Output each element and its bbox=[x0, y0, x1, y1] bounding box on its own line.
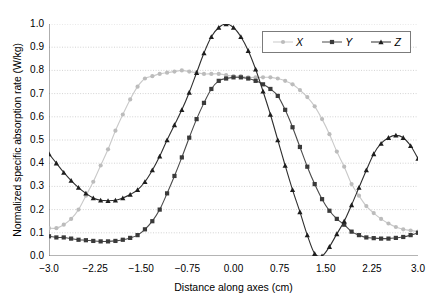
data-point-marker bbox=[179, 107, 184, 112]
data-point-marker bbox=[298, 88, 302, 92]
data-point-marker bbox=[394, 225, 398, 229]
data-point-marker bbox=[305, 233, 310, 238]
data-point-marker bbox=[106, 147, 110, 151]
data-point-marker bbox=[297, 209, 302, 214]
chart-legend: XYZ bbox=[262, 31, 411, 53]
data-point-marker bbox=[121, 238, 125, 242]
data-point-marker bbox=[356, 185, 361, 190]
data-point-marker bbox=[281, 40, 285, 44]
plot-canvas bbox=[49, 24, 418, 256]
y-tick-label: 0.5 bbox=[18, 135, 44, 145]
data-point-marker bbox=[113, 239, 117, 243]
data-point-marker bbox=[253, 67, 258, 72]
data-point-marker bbox=[165, 191, 169, 195]
y-tick-label: 0.4 bbox=[18, 158, 44, 168]
chart-figure: Normalized specific absorption rate (W/k… bbox=[0, 0, 439, 301]
data-point-marker bbox=[157, 154, 162, 159]
data-point-marker bbox=[401, 235, 405, 239]
data-point-marker bbox=[209, 34, 214, 39]
circle-marker-icon bbox=[272, 36, 294, 48]
y-tick-label: 0.9 bbox=[18, 42, 44, 52]
data-point-marker bbox=[268, 87, 272, 91]
data-point-marker bbox=[54, 235, 58, 239]
square-marker-icon bbox=[321, 36, 343, 48]
data-point-marker bbox=[209, 87, 213, 91]
data-point-marker bbox=[217, 72, 221, 76]
data-point-marker bbox=[394, 236, 398, 240]
data-point-marker bbox=[187, 136, 191, 140]
series-line bbox=[49, 77, 418, 241]
legend-entry-y[interactable]: Y bbox=[321, 36, 352, 48]
data-point-marker bbox=[76, 208, 80, 212]
series-y bbox=[49, 75, 418, 243]
data-point-marker bbox=[172, 69, 176, 73]
data-point-marker bbox=[69, 217, 73, 221]
data-point-marker bbox=[379, 217, 383, 221]
data-point-marker bbox=[158, 208, 162, 212]
data-point-marker bbox=[128, 192, 133, 197]
data-point-marker bbox=[150, 168, 155, 173]
data-point-marker bbox=[371, 151, 376, 156]
data-point-marker bbox=[305, 95, 309, 99]
data-point-marker bbox=[330, 40, 334, 44]
data-point-marker bbox=[143, 227, 147, 231]
data-point-marker bbox=[113, 129, 117, 133]
legend-label: Z bbox=[394, 37, 400, 48]
legend-entry-x[interactable]: X bbox=[272, 36, 303, 48]
x-tick-label: −3.0 bbox=[29, 263, 69, 274]
data-point-marker bbox=[91, 195, 96, 200]
data-point-marker bbox=[364, 235, 368, 239]
data-point-marker bbox=[327, 209, 331, 213]
data-point-marker bbox=[99, 239, 103, 243]
data-point-marker bbox=[357, 233, 361, 237]
data-point-marker bbox=[76, 238, 80, 242]
data-point-marker bbox=[283, 163, 288, 168]
data-point-marker bbox=[135, 233, 139, 237]
data-point-marker bbox=[364, 168, 369, 173]
data-point-marker bbox=[158, 72, 162, 76]
data-point-marker bbox=[201, 50, 206, 55]
data-point-marker bbox=[128, 236, 132, 240]
data-point-marker bbox=[349, 182, 353, 186]
data-point-marker bbox=[172, 122, 177, 127]
y-axis-tick-labels: 0.00.10.20.30.40.50.60.70.80.91.0 bbox=[14, 0, 44, 301]
legend-entry-z[interactable]: Z bbox=[370, 36, 400, 48]
y-tick-label: 0.6 bbox=[18, 112, 44, 122]
data-point-marker bbox=[49, 151, 52, 156]
data-point-marker bbox=[401, 227, 405, 231]
y-tick-label: 0.3 bbox=[18, 181, 44, 191]
x-tick-label: 3.0 bbox=[398, 263, 438, 274]
data-point-marker bbox=[209, 72, 213, 76]
legend-label: X bbox=[296, 37, 303, 48]
data-point-marker bbox=[313, 104, 317, 108]
data-point-marker bbox=[187, 90, 192, 95]
data-point-marker bbox=[349, 202, 354, 207]
data-point-marker bbox=[49, 234, 51, 238]
data-point-marker bbox=[135, 85, 139, 89]
triangle-marker-icon bbox=[370, 36, 392, 48]
data-point-marker bbox=[165, 71, 169, 75]
y-tick-label: 0.1 bbox=[18, 228, 44, 238]
data-point-marker bbox=[298, 145, 302, 149]
data-point-marker bbox=[349, 230, 353, 234]
y-tick-label: 0.7 bbox=[18, 89, 44, 99]
series-line bbox=[49, 70, 418, 231]
x-tick-label: 1.50 bbox=[306, 263, 346, 274]
data-point-marker bbox=[268, 112, 273, 117]
data-point-marker bbox=[364, 204, 368, 208]
data-point-marker bbox=[239, 75, 243, 79]
data-point-marker bbox=[91, 239, 95, 243]
data-point-marker bbox=[276, 94, 280, 98]
x-tick-label: 0.75 bbox=[260, 263, 300, 274]
data-point-marker bbox=[416, 231, 418, 235]
data-point-marker bbox=[305, 165, 309, 169]
series-x bbox=[49, 68, 418, 233]
x-tick-label: 2.25 bbox=[352, 263, 392, 274]
data-point-marker bbox=[91, 180, 95, 184]
data-point-marker bbox=[62, 223, 66, 227]
y-tick-label: 0.8 bbox=[18, 65, 44, 75]
data-point-marker bbox=[150, 74, 154, 78]
data-point-marker bbox=[401, 135, 406, 140]
data-point-marker bbox=[121, 112, 125, 116]
y-tick-label: 0.2 bbox=[18, 205, 44, 215]
